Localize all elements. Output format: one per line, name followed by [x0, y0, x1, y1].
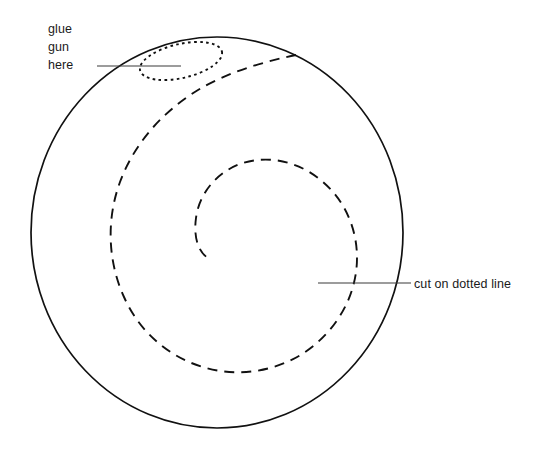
outer-circle: [31, 37, 403, 428]
glue-label-line-2: gun: [48, 40, 69, 54]
glue-gun-oval: [136, 35, 225, 87]
glue-label-line-3: here: [48, 58, 73, 72]
spiral-cut-pattern-figure: glue gun here cut on dotted line: [0, 0, 547, 454]
cut-label: cut on dotted line: [414, 277, 511, 291]
cut-spiral: [111, 55, 357, 372]
glue-label-line-1: glue: [48, 22, 72, 36]
diagram-canvas: glue gun here cut on dotted line: [0, 0, 547, 454]
